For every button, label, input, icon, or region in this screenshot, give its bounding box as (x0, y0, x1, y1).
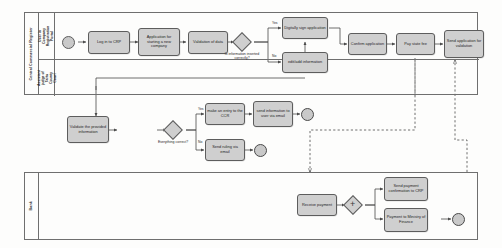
lane-label-user-portal: User in Company Registration Portal (39, 13, 55, 59)
task-digitally-sign-application[interactable]: Digitally sign application (282, 17, 328, 39)
pool-label-bank: Bank (25, 173, 39, 239)
task-confirm-application[interactable]: Confirm application (348, 33, 387, 55)
plus-icon: + (350, 200, 355, 209)
task-receive-payment[interactable]: Receive payment (297, 194, 337, 216)
pool-title-text: Central Commercial Register (30, 27, 34, 80)
task-send-information-to-user[interactable]: send information to user via email (253, 101, 293, 127)
task-validation-of-data-label: Validation of data (193, 40, 223, 45)
task-digitally-sign-application-label: Digitally sign application (284, 26, 326, 31)
task-validate-provided-information-label: Validate the provided information (69, 125, 107, 135)
gateway-info-correct-text: Is information inserted correctly? (225, 52, 259, 60)
lane-label-assistant-judge: Assistant judge of Tartu County Court (39, 60, 55, 96)
task-send-payment-confirmation-to-crp-label: Send payment confirmation to CRP (386, 184, 426, 194)
task-log-in-to-crp-label: Log in to CRP (97, 40, 121, 45)
task-edit-add-information-label: edit/add information (288, 60, 322, 65)
task-send-application-for-validation-label: Send application for validation (446, 39, 482, 49)
task-send-application-for-validation[interactable]: Send application for validation (444, 30, 484, 58)
task-application-new-company-label: Application for starting a new company (140, 35, 178, 50)
end-event-ruling-sent[interactable] (254, 144, 267, 157)
lane-assistant-judge-tartu-county-court: Assistant judge of Tartu County Court (39, 60, 479, 96)
task-send-ruling-via-email-label: Send ruling via email (207, 145, 243, 155)
task-payment-to-ministry-of-finance-label: Payment to Ministry of Finance (386, 215, 426, 225)
gateway-everything-correct-text: Everything correct? (158, 140, 188, 144)
bpmn-diagram-canvas: Central Commercial Register User in Comp… (0, 0, 502, 248)
task-confirm-application-label: Confirm application (351, 42, 384, 47)
task-make-entry-to-ccr-label: make an entry to the CCR (207, 109, 243, 119)
end-event-user-informed[interactable] (301, 108, 314, 121)
gateway-is-information-inserted-correctly-label: Is information inserted correctly? (222, 52, 262, 61)
task-pay-state-fee-label: Pay state fee (404, 42, 427, 47)
task-send-information-to-user-label: send information to user via email (255, 109, 291, 119)
task-pay-state-fee[interactable]: Pay state fee (396, 33, 435, 55)
lane-title-user-portal-text: User in Company Registration Portal (38, 26, 54, 46)
task-payment-to-ministry-of-finance[interactable]: Payment to Ministry of Finance (384, 208, 428, 232)
pool-title-bank-text: Bank (30, 201, 34, 210)
edge-label-info-correct-no: No (272, 55, 276, 58)
start-event-registration[interactable] (62, 36, 75, 49)
end-event-payment-complete[interactable] (452, 213, 465, 226)
task-send-ruling-via-email[interactable]: Send ruling via email (205, 139, 245, 161)
task-edit-add-information[interactable]: edit/add information (282, 52, 328, 73)
task-make-entry-to-ccr[interactable]: make an entry to the CCR (205, 103, 245, 125)
gateway-everything-correct-label: Everything correct? (153, 140, 193, 144)
edge-label-everything-correct-yes: Yes (198, 108, 204, 111)
task-log-in-to-crp[interactable]: Log in to CRP (88, 31, 130, 54)
task-validate-provided-information[interactable]: Validate the provided information (67, 116, 109, 143)
lane-title-assistant-judge-text: Assistant judge of Tartu County Court (36, 70, 56, 86)
task-application-new-company[interactable]: Application for starting a new company (138, 28, 180, 56)
task-receive-payment-label: Receive payment (302, 203, 332, 208)
task-send-payment-confirmation-to-crp[interactable]: Send payment confirmation to CRP (384, 177, 428, 201)
edge-label-everything-correct-no: No (198, 141, 202, 144)
task-validation-of-data[interactable]: Validation of data (188, 31, 228, 54)
edge-label-info-correct-yes: Yes (272, 22, 278, 25)
